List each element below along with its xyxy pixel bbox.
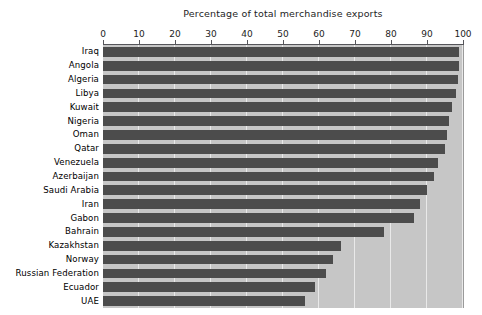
category-label: Algeria xyxy=(0,74,99,84)
bar-row xyxy=(103,227,463,237)
category-label: Angola xyxy=(0,60,99,70)
bar xyxy=(103,61,459,71)
bar xyxy=(103,89,456,99)
category-label: UAE xyxy=(0,296,99,306)
bar-row xyxy=(103,199,463,209)
bar xyxy=(103,158,438,168)
bar xyxy=(103,213,414,223)
bar-row xyxy=(103,158,463,168)
category-label: Gabon xyxy=(0,213,99,223)
bar-row xyxy=(103,130,463,140)
category-label: Saudi Arabia xyxy=(0,185,99,195)
category-label: Azerbaijan xyxy=(0,171,99,181)
category-label: Qatar xyxy=(0,143,99,153)
x-axis-tick-label: 70 xyxy=(349,29,360,39)
bar-row xyxy=(103,102,463,112)
bar-row xyxy=(103,213,463,223)
category-label: Iraq xyxy=(0,46,99,56)
category-label: Iran xyxy=(0,199,99,209)
x-axis-tick-label: 10 xyxy=(133,29,144,39)
x-axis-tick-label: 20 xyxy=(169,29,180,39)
bar xyxy=(103,269,326,279)
category-label: Kazakhstan xyxy=(0,240,99,250)
bar xyxy=(103,144,445,154)
x-axis-tick-label: 100 xyxy=(454,29,471,39)
bar-row xyxy=(103,116,463,126)
bar xyxy=(103,185,427,195)
bar-row xyxy=(103,75,463,85)
category-label: Oman xyxy=(0,129,99,139)
bar-row xyxy=(103,89,463,99)
bar-row xyxy=(103,185,463,195)
bar-row xyxy=(103,241,463,251)
bar xyxy=(103,199,420,209)
category-label: Bahrain xyxy=(0,226,99,236)
x-axis-tick-label: 0 xyxy=(100,29,106,39)
bar-row xyxy=(103,172,463,182)
bar-row xyxy=(103,296,463,306)
category-label: Nigeria xyxy=(0,116,99,126)
bar-row xyxy=(103,255,463,265)
x-axis-tick-label: 80 xyxy=(385,29,396,39)
category-label: Libya xyxy=(0,88,99,98)
plot-area xyxy=(103,45,464,308)
bar xyxy=(103,130,447,140)
x-axis-tick-label: 50 xyxy=(277,29,288,39)
bar xyxy=(103,282,315,292)
bar-row xyxy=(103,282,463,292)
x-axis-tick-label: 90 xyxy=(421,29,432,39)
bar xyxy=(103,227,384,237)
category-label: Russian Federation xyxy=(0,268,99,278)
x-axis-tick-label: 40 xyxy=(241,29,252,39)
bar xyxy=(103,75,458,85)
bar xyxy=(103,47,459,57)
bar-row xyxy=(103,144,463,154)
bar-chart: Percentage of total merchandise exports … xyxy=(0,0,482,315)
bar xyxy=(103,255,333,265)
category-label: Ecuador xyxy=(0,282,99,292)
x-axis: 0102030405060708090100 xyxy=(103,29,463,45)
category-label: Norway xyxy=(0,254,99,264)
bar xyxy=(103,241,341,251)
bar-row xyxy=(103,61,463,71)
category-label: Kuwait xyxy=(0,102,99,112)
category-label: Venezuela xyxy=(0,157,99,167)
bar-row xyxy=(103,269,463,279)
bar-row xyxy=(103,47,463,57)
category-axis-labels: IraqAngolaAlgeriaLibyaKuwaitNigeriaOmanQ… xyxy=(0,45,99,308)
bars-layer xyxy=(103,45,463,308)
bar xyxy=(103,296,305,306)
bar xyxy=(103,172,434,182)
chart-title: Percentage of total merchandise exports xyxy=(103,8,463,19)
x-axis-tick-label: 60 xyxy=(313,29,324,39)
bar xyxy=(103,102,452,112)
bar xyxy=(103,116,449,126)
x-axis-tick-label: 30 xyxy=(205,29,216,39)
